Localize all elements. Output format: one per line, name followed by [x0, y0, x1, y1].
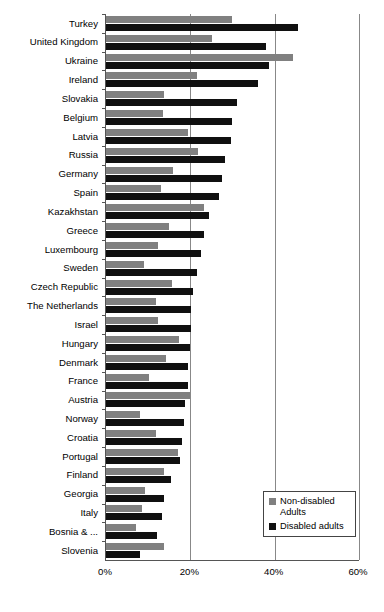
bar-non-disabled-adults	[106, 298, 156, 305]
category-tick	[102, 52, 106, 53]
bar-non-disabled-adults	[106, 129, 188, 136]
bar-row	[106, 165, 359, 184]
bar-non-disabled-adults	[106, 411, 140, 418]
bar-non-disabled-adults	[106, 505, 142, 512]
category-label: Croatia	[0, 428, 103, 447]
bar-disabled-adults	[106, 363, 188, 370]
bar-disabled-adults	[106, 80, 258, 87]
category-tick	[102, 541, 106, 542]
legend-label: Disabled adults	[280, 521, 344, 532]
bar-non-disabled-adults	[106, 91, 164, 98]
bar-disabled-adults	[106, 419, 184, 426]
category-tick	[102, 183, 106, 184]
x-axis-tick-label: 20%	[180, 566, 199, 577]
category-tick	[102, 372, 106, 373]
bar-row	[106, 409, 359, 428]
category-tick	[102, 146, 106, 147]
bar-non-disabled-adults	[106, 543, 164, 550]
bar-non-disabled-adults	[106, 468, 164, 475]
category-label: Slovenia	[0, 541, 103, 560]
bar-disabled-adults	[106, 269, 197, 276]
bar-row	[106, 541, 359, 560]
category-label: Finland	[0, 466, 103, 485]
category-label: France	[0, 372, 103, 391]
bar-row	[106, 315, 359, 334]
bar-row	[106, 52, 359, 71]
category-tick	[102, 334, 106, 335]
category-tick	[102, 315, 106, 316]
category-tick	[102, 70, 106, 71]
bar-row	[106, 127, 359, 146]
x-axis-tick-label: 40%	[264, 566, 283, 577]
category-tick	[102, 108, 106, 109]
category-tick	[102, 447, 106, 448]
category-tick	[102, 409, 106, 410]
bar-non-disabled-adults	[106, 35, 212, 42]
category-label: Ireland	[0, 70, 103, 89]
bar-non-disabled-adults	[106, 280, 172, 287]
category-axis-labels: TurkeyUnited KingdomUkraineIrelandSlovak…	[0, 14, 103, 560]
bar-disabled-adults	[106, 43, 266, 50]
bar-disabled-adults	[106, 513, 162, 520]
bar-row	[106, 353, 359, 372]
category-label: Kazakhstan	[0, 202, 103, 221]
bar-non-disabled-adults	[106, 374, 149, 381]
x-axis-tick-label: 60%	[348, 566, 367, 577]
category-tick	[102, 504, 106, 505]
bar-chart: TurkeyUnited KingdomUkraineIrelandSlovak…	[0, 0, 384, 612]
category-label: Greece	[0, 221, 103, 240]
bar-row	[106, 466, 359, 485]
bar-row	[106, 70, 359, 89]
category-label: Georgia	[0, 485, 103, 504]
category-label: Sweden	[0, 259, 103, 278]
bar-row	[106, 240, 359, 259]
category-label: Czech Republic	[0, 278, 103, 297]
category-tick	[102, 466, 106, 467]
category-tick	[102, 278, 106, 279]
category-label: Latvia	[0, 127, 103, 146]
x-axis: 0%20%40%60%	[105, 561, 359, 581]
bar-row	[106, 447, 359, 466]
category-label: Turkey	[0, 14, 103, 33]
category-tick	[102, 391, 106, 392]
legend-swatch-icon	[269, 523, 276, 530]
category-label: Denmark	[0, 353, 103, 372]
category-label: Ukraine	[0, 52, 103, 71]
bar-row	[106, 278, 359, 297]
category-label: Italy	[0, 504, 103, 523]
plot-area	[105, 14, 359, 561]
bar-row	[106, 259, 359, 278]
bar-non-disabled-adults	[106, 204, 204, 211]
bar-non-disabled-adults	[106, 449, 178, 456]
category-tick	[102, 259, 106, 260]
bar-disabled-adults	[106, 62, 269, 69]
bar-non-disabled-adults	[106, 487, 145, 494]
legend-item: Non-disabled Adults	[269, 496, 351, 519]
category-label: Slovakia	[0, 89, 103, 108]
category-label: Spain	[0, 183, 103, 202]
category-label: Israel	[0, 315, 103, 334]
category-label: The Netherlands	[0, 296, 103, 315]
bar-non-disabled-adults	[106, 317, 158, 324]
bar-disabled-adults	[106, 306, 191, 313]
bar-non-disabled-adults	[106, 54, 293, 61]
bar-non-disabled-adults	[106, 16, 232, 23]
bar-non-disabled-adults	[106, 392, 190, 399]
bar-non-disabled-adults	[106, 167, 173, 174]
bar-non-disabled-adults	[106, 223, 169, 230]
bar-disabled-adults	[106, 382, 188, 389]
category-label: Luxembourg	[0, 240, 103, 259]
bar-disabled-adults	[106, 344, 190, 351]
category-tick	[102, 485, 106, 486]
gridline	[359, 14, 360, 560]
legend-swatch-icon	[269, 498, 276, 505]
category-tick	[102, 240, 106, 241]
bar-row	[106, 428, 359, 447]
bar-disabled-adults	[106, 24, 298, 31]
bar-row	[106, 372, 359, 391]
category-tick	[102, 14, 106, 15]
bar-non-disabled-adults	[106, 185, 161, 192]
bar-row	[106, 14, 359, 33]
category-tick	[102, 296, 106, 297]
category-label: Portugal	[0, 447, 103, 466]
